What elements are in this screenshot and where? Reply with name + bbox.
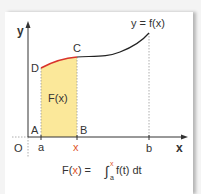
integral-function-diagram: y = f(x) y x O A B C D a x b F(x) F(x) =… xyxy=(0,0,201,194)
point-label-c: C xyxy=(73,42,81,54)
formula-lhs-close: ) = xyxy=(78,164,91,176)
y-axis-arrow-icon xyxy=(26,21,31,28)
tick-label-x: x xyxy=(73,141,79,153)
point-label-b: B xyxy=(80,124,87,136)
point-label-d: D xyxy=(31,62,39,74)
area-label: F(x) xyxy=(48,92,68,104)
x-axis-arrow-icon xyxy=(181,135,188,140)
formula: F(x) = ∫ x a f(t) dt xyxy=(62,160,142,181)
integral-lower-limit: a xyxy=(110,174,114,181)
origin-label: O xyxy=(14,142,23,154)
integrand: f(t) dt xyxy=(116,164,142,176)
tick-label-b: b xyxy=(146,142,152,154)
x-axis-label: x xyxy=(176,141,183,155)
svg-text:F(x) =: F(x) = xyxy=(62,164,91,176)
point-label-a-upper: A xyxy=(31,124,39,136)
integral-upper-limit: x xyxy=(110,160,114,167)
function-curve xyxy=(77,33,149,57)
curve-label: y = f(x) xyxy=(131,17,165,29)
tick-label-a: a xyxy=(38,141,45,153)
formula-lhs-f: F( xyxy=(62,164,73,176)
y-axis-label: y xyxy=(17,24,24,38)
